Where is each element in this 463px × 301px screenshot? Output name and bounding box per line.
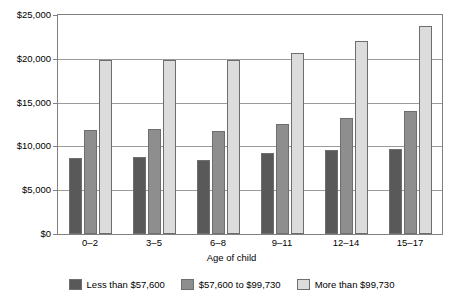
bar <box>227 60 240 234</box>
bar <box>212 131 225 234</box>
legend-label: Less than $57,600 <box>87 280 165 290</box>
bar <box>325 150 338 234</box>
y-axis-tick-label: $10,000 <box>0 141 51 151</box>
x-axis-tick-label: 12–14 <box>314 238 378 248</box>
bar <box>340 118 353 235</box>
y-axis-tick-label: $0 <box>0 229 51 239</box>
bar <box>404 111 417 234</box>
bar-group <box>122 15 186 234</box>
y-axis-tick-label: $5,000 <box>0 185 51 195</box>
x-axis-tick-labels: 0–23–56–89–1112–1415–17 <box>58 238 442 252</box>
y-axis-tick-label: $20,000 <box>0 54 51 64</box>
bar <box>99 60 112 234</box>
bar-group <box>186 15 250 234</box>
bar-group <box>250 15 314 234</box>
x-axis-tick-label: 6–8 <box>186 238 250 248</box>
chart-legend: Less than $57,600$57,600 to $99,730More … <box>0 279 463 290</box>
x-axis-tick-label: 0–2 <box>58 238 122 248</box>
x-axis-tick-label: 3–5 <box>122 238 186 248</box>
plot-wrapper: $0$5,000$10,000$15,000$20,000$25,000 0–2… <box>0 0 463 252</box>
bar-group <box>314 15 378 234</box>
bar <box>133 157 146 234</box>
x-axis-title: Age of child <box>0 252 463 263</box>
legend-item: More than $99,730 <box>297 279 395 290</box>
legend-item: Less than $57,600 <box>69 279 165 290</box>
bar <box>84 130 97 234</box>
legend-item: $57,600 to $99,730 <box>181 279 281 290</box>
bar-group <box>58 15 122 234</box>
bar <box>389 149 402 234</box>
bar <box>419 26 432 234</box>
y-axis-tick-label: $15,000 <box>0 98 51 108</box>
chart-figure: $0$5,000$10,000$15,000$20,000$25,000 0–2… <box>0 0 463 301</box>
y-axis-tick-label: $25,000 <box>0 10 51 20</box>
legend-swatch-icon <box>297 279 310 290</box>
bar <box>148 129 161 234</box>
bar <box>261 153 274 234</box>
legend-label: More than $99,730 <box>315 280 395 290</box>
x-axis-tick-label: 15–17 <box>378 238 442 248</box>
bar <box>69 158 82 234</box>
legend-swatch-icon <box>69 279 82 290</box>
bar <box>355 41 368 234</box>
bars-layer <box>58 15 442 234</box>
bar <box>163 60 176 234</box>
bar <box>291 53 304 234</box>
x-axis-tick-label: 9–11 <box>250 238 314 248</box>
bar <box>197 160 210 234</box>
legend-swatch-icon <box>181 279 194 290</box>
bar <box>276 124 289 234</box>
legend-label: $57,600 to $99,730 <box>199 280 281 290</box>
bar-group <box>378 15 442 234</box>
